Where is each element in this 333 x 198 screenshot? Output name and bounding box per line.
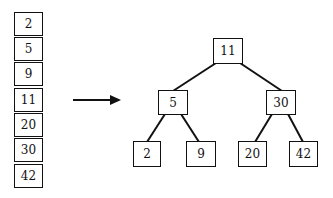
array-cell: 30 (14, 138, 43, 162)
tree-node-root: 11 (213, 38, 243, 64)
array-cell: 20 (14, 113, 43, 137)
edge-5-9 (181, 114, 199, 142)
tree-node-left: 5 (158, 90, 188, 115)
tree-node-right: 30 (266, 90, 296, 115)
tree-node-right-left: 20 (238, 141, 267, 167)
edge-11-30 (240, 63, 282, 91)
edge-30-20 (255, 114, 272, 142)
array-cell: 5 (14, 37, 43, 61)
array-cell: 42 (14, 164, 43, 188)
edge-30-42 (288, 114, 303, 142)
tree-node-right-right: 42 (289, 141, 318, 167)
tree-node-left-right: 9 (186, 141, 216, 167)
edge-5-2 (147, 114, 165, 142)
array-cell: 9 (14, 62, 43, 86)
array-cell: 11 (14, 88, 43, 112)
arrow-head-icon (110, 95, 121, 105)
tree-node-left-left: 2 (133, 141, 161, 167)
array-cell: 2 (14, 12, 43, 36)
edge-11-5 (173, 63, 216, 91)
